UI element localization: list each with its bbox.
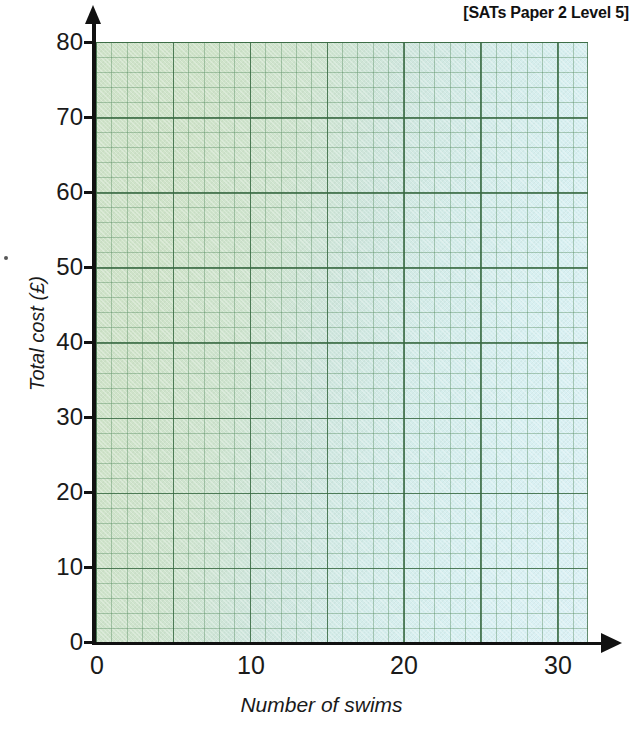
y-tick-label: 0 [13,630,83,654]
x-axis-title: Number of swims [0,693,643,717]
x-tick-label: 30 [518,653,598,678]
y-tick-label: 70 [13,105,83,129]
y-tick-label: 20 [13,480,83,504]
x-tick-label: 0 [57,653,137,678]
y-tick-label: 10 [13,555,83,579]
x-axis-line [92,642,604,646]
page-title: [SATs Paper 2 Level 5] [463,4,629,22]
graph-paper-border [96,42,588,643]
y-axis-line [92,22,96,645]
y-tick-label: 80 [13,30,83,54]
plot-area[interactable] [96,42,588,643]
x-tick-label: 20 [364,653,444,678]
y-axis-arrow-icon [85,5,101,24]
scan-artifact-speck [4,256,8,260]
y-tick-label: 60 [13,180,83,204]
y-axis-title: Total cost (£) [26,219,49,449]
x-axis-arrow-icon [601,633,622,653]
x-tick-label: 10 [211,653,291,678]
